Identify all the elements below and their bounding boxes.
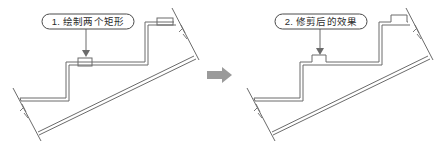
figure-canvas: 1. 绘制两个矩形 [0, 0, 440, 157]
panel-label-after: 2. 修剪后的效果 [275, 14, 367, 29]
cad-trim-figure: 1. 绘制两个矩形 [0, 0, 440, 157]
panel-label-text-after: 2. 修剪后的效果 [285, 16, 357, 27]
panel-label-before: 1. 绘制两个矩形 [42, 14, 134, 29]
panel-label-text-before: 1. 绘制两个矩形 [52, 16, 124, 27]
